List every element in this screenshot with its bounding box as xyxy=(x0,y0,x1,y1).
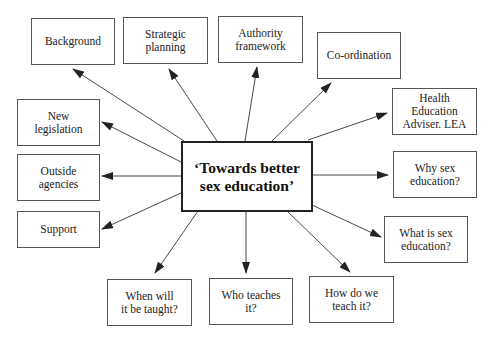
node-strategic-planning: Strategic planning xyxy=(123,17,208,64)
arrow-to-support xyxy=(102,193,181,229)
node-label: Background xyxy=(45,35,101,48)
node-new-legislation: New legislation xyxy=(17,99,100,146)
node-center-towards-better-sex-education: ‘Towards better sex education’ xyxy=(181,141,313,212)
node-label: Health Education Adviser. LEA xyxy=(395,92,474,131)
node-outside-agencies: Outside agencies xyxy=(17,154,100,201)
node-support: Support xyxy=(17,211,100,248)
center-label: ‘Towards better sex education’ xyxy=(194,159,300,195)
arrow-to-co-ordination xyxy=(272,83,331,141)
arrow-to-strategic-planning xyxy=(169,69,217,141)
node-label: Why sex education? xyxy=(410,162,460,188)
node-why-sex-education: Why sex education? xyxy=(393,151,477,198)
node-label: Outside agencies xyxy=(39,165,79,191)
node-when-will-it-be-taught: When will it be taught? xyxy=(107,279,192,326)
arrow-to-authority-framework xyxy=(245,67,257,141)
arrow-to-what-is-sex-education xyxy=(312,205,381,237)
arrow-to-how-do-we-teach-it xyxy=(287,211,350,272)
node-label: Who teaches it? xyxy=(221,289,280,315)
node-what-is-sex-education: What is sex education? xyxy=(384,216,468,263)
node-label: When will it be taught? xyxy=(121,290,178,316)
node-label: Support xyxy=(40,223,76,236)
node-label: Co-ordination xyxy=(327,49,392,62)
arrow-to-new-legislation xyxy=(102,122,181,162)
node-label: New legislation xyxy=(35,110,83,136)
node-label: How do we teach it? xyxy=(325,287,378,313)
node-who-teaches-it: Who teaches it? xyxy=(209,278,293,325)
arrow-to-health-education-adviser xyxy=(308,113,387,140)
arrow-to-when-will-it-be-taught xyxy=(155,211,198,273)
node-label: What is sex education? xyxy=(399,227,453,253)
node-co-ordination: Co-ordination xyxy=(317,32,401,79)
node-authority-framework: Authority framework xyxy=(218,16,303,63)
node-health-education-adviser: Health Education Adviser. LEA xyxy=(392,88,477,135)
node-label: Strategic planning xyxy=(145,28,186,54)
node-how-do-we-teach-it: How do we teach it? xyxy=(309,276,394,323)
node-background: Background xyxy=(31,18,115,65)
node-label: Authority framework xyxy=(235,27,285,53)
